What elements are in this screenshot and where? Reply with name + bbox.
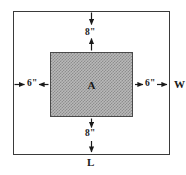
outer-length-label: L — [87, 156, 94, 168]
region-area-label: A — [51, 79, 132, 91]
outer-width-label: W — [174, 78, 185, 90]
inner-shaded-rectangle: A — [50, 52, 133, 117]
geometry-diagram: A 8" 8" 6" 6" — [0, 0, 186, 175]
right-margin-label: 6" — [144, 78, 156, 88]
left-margin-label: 6" — [26, 78, 38, 88]
bottom-margin-label: 8" — [84, 128, 96, 138]
top-margin-label: 8" — [84, 27, 96, 37]
